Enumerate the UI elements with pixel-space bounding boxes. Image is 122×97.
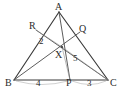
point-label-X: X: [55, 50, 62, 60]
point-label-C: C: [110, 78, 117, 88]
point-label-Q: Q: [79, 24, 86, 34]
point-label-P: P: [66, 78, 72, 88]
measure-label-segment-PC: 3: [87, 79, 92, 88]
point-label-R: R: [29, 21, 36, 31]
measure-arc-BP: [16, 81, 68, 85]
segment-side-AB: [14, 12, 59, 80]
point-X-marker: [61, 46, 63, 48]
measure-label-segment-BP: 4: [36, 79, 41, 88]
point-label-B: B: [5, 78, 12, 88]
point-label-A: A: [55, 2, 62, 12]
geometry-figure: A R Q B P C X 2 5 4 3: [0, 0, 122, 97]
segment-cevian-BQ: [14, 32, 80, 80]
measure-label-region-2: 2: [39, 37, 44, 46]
measure-label-region-5: 5: [73, 54, 78, 63]
